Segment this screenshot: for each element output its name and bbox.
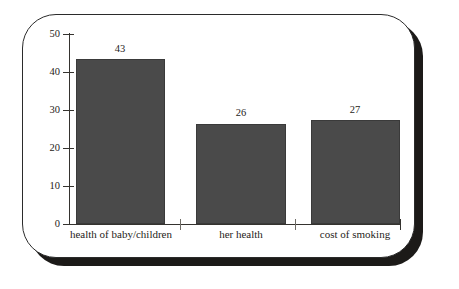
- y-axis-tick-30: [63, 110, 74, 111]
- category-label-1: health of baby/children: [50, 228, 192, 240]
- plot-area: 50 40 30 20 10 0 43 26 27 health of baby…: [0, 0, 459, 289]
- category-label-2: her health: [181, 228, 301, 240]
- y-axis-tick-10: [63, 186, 74, 187]
- y-axis-tick-40: [63, 72, 74, 73]
- y-axis-label-20: 20: [34, 143, 60, 154]
- y-axis-label-30: 30: [34, 105, 60, 116]
- y-axis-tick-20: [63, 148, 74, 149]
- y-axis-label-50: 50: [34, 29, 60, 40]
- y-axis-line: [69, 33, 70, 225]
- y-axis-label-40: 40: [34, 67, 60, 78]
- bar-cost-of-smoking: [311, 120, 400, 224]
- chart-screenshot: 50 40 30 20 10 0 43 26 27 health of baby…: [0, 0, 459, 289]
- bar-value-label-1: 43: [90, 44, 150, 55]
- bar-value-label-3: 27: [325, 105, 385, 116]
- y-axis-label-10: 10: [34, 181, 60, 192]
- bar-her-health: [196, 124, 286, 224]
- bar-value-label-2: 26: [211, 108, 271, 119]
- category-label-3: cost of smoking: [295, 228, 415, 240]
- y-axis-tick-50: [63, 34, 74, 35]
- bar-health-of-baby-children: [76, 59, 165, 224]
